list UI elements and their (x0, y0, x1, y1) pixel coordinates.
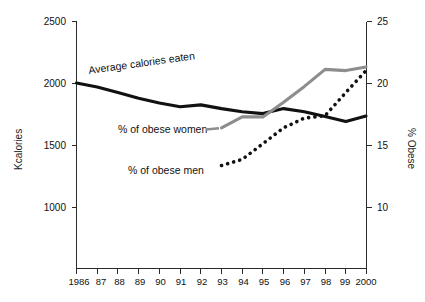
x-tick-label-1995: 95 (259, 276, 270, 287)
x-axis-tick-labels: 1986 87 88 89 90 91 92 93 94 95 96 97 98… (68, 276, 376, 287)
chart-figure: 2500 2000 1500 1000 25 20 15 10 (0, 0, 425, 302)
axis-frame-path (77, 22, 367, 269)
right-axis-title: % Obese (406, 128, 417, 170)
x-tick-label-2000: 2000 (355, 276, 376, 287)
x-tick-label-1991: 91 (176, 276, 187, 287)
x-tick-label-1999: 99 (340, 276, 351, 287)
x-tick-label-1997: 97 (300, 276, 311, 287)
right-tick-label-10: 10 (377, 202, 389, 213)
x-tick-label-1990: 90 (155, 276, 166, 287)
x-tick-label-1988: 88 (114, 276, 125, 287)
left-tick-label-1000: 1000 (44, 202, 67, 213)
x-tick-label-1987: 87 (96, 276, 107, 287)
annotation-average-calories-eaten: Average calories eaten (88, 49, 196, 76)
left-axis-title: Kcalories (13, 129, 24, 170)
left-tick-label-2000: 2000 (44, 78, 67, 89)
x-tick-label-1993: 93 (217, 276, 228, 287)
right-tick-label-25: 25 (377, 16, 389, 27)
annotation-leader-obese-women (206, 128, 219, 129)
x-tick-label-1998: 98 (321, 276, 332, 287)
x-axis-ticks (77, 269, 367, 274)
right-axis-tick-labels: 25 20 15 10 (377, 16, 389, 213)
x-tick-label-1989: 89 (135, 276, 146, 287)
x-tick-label-1986: 1986 (68, 276, 89, 287)
right-tick-label-20: 20 (377, 78, 389, 89)
right-tick-label-15: 15 (377, 140, 389, 151)
x-tick-label-1994: 94 (238, 276, 249, 287)
x-tick-label-1992: 92 (197, 276, 208, 287)
left-tick-label-1500: 1500 (44, 140, 67, 151)
series-line-obese-women (222, 67, 367, 128)
annotation-obese-men: % of obese men (128, 164, 204, 176)
left-axis-tick-labels: 2500 2000 1500 1000 (44, 16, 67, 213)
right-axis-ticks (367, 22, 372, 208)
axes-frame (77, 22, 367, 269)
left-axis-ticks (72, 22, 77, 208)
x-tick-label-1996: 96 (280, 276, 291, 287)
chart-canvas: 2500 2000 1500 1000 25 20 15 10 (0, 0, 425, 302)
left-tick-label-2500: 2500 (44, 16, 67, 27)
annotation-obese-women: % of obese women (118, 123, 207, 135)
